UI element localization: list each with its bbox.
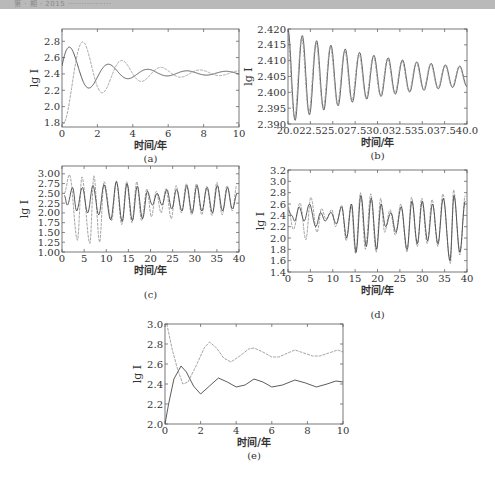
- x-tick-label: 25: [394, 273, 407, 284]
- series-dark-line: [165, 366, 343, 424]
- panel-c: 05101520253035401.001.251.501.752.002.25…: [18, 166, 245, 300]
- y-tick-label: 2.4: [44, 68, 60, 79]
- x-tick-label: 10: [337, 425, 350, 436]
- y-tick-label: 2.4: [147, 379, 163, 390]
- y-tick-label: 2.2: [270, 221, 286, 232]
- series-dark-line: [288, 30, 467, 121]
- y-tick-label: 2.8: [147, 339, 163, 350]
- x-axis-label: 时间/年: [134, 139, 168, 151]
- y-tick-label: 1.4: [270, 267, 286, 278]
- series-dark-line: [62, 47, 239, 88]
- x-tick-label: 4: [130, 128, 136, 139]
- x-tick-label: 35: [438, 273, 451, 284]
- figure: 02468101.82.02.22.42.62.8时间/年lg I(a)20.0…: [0, 0, 495, 488]
- y-axis-label: lg I: [28, 69, 41, 87]
- x-tick-label: 32.5: [389, 125, 411, 136]
- y-tick-label: 2.410: [257, 55, 286, 66]
- x-tick-label: 2: [197, 425, 203, 436]
- y-tick-label: 3.0: [147, 319, 163, 330]
- y-tick-label: 2.400: [257, 87, 286, 98]
- x-tick-label: 4: [233, 425, 239, 436]
- x-tick-label: 20: [144, 253, 157, 264]
- y-tick-label: 2.8: [270, 187, 286, 198]
- y-axis-label: lg I: [242, 67, 255, 85]
- x-tick-label: 6: [165, 128, 171, 139]
- y-tick-label: 2.00: [38, 207, 60, 218]
- x-tick-label: 35.0: [411, 125, 433, 136]
- panel-caption: (c): [144, 289, 158, 300]
- y-tick-label: 1.8: [270, 244, 286, 255]
- y-tick-label: 2.2: [44, 85, 60, 96]
- y-tick-label: 1.8: [44, 117, 60, 128]
- x-axis-label: 时间/年: [237, 436, 271, 448]
- y-tick-label: 3.0: [270, 176, 286, 187]
- x-tick-label: 40.0: [456, 125, 478, 136]
- y-tick-label: 2.395: [257, 103, 286, 114]
- panel-caption: (d): [370, 309, 384, 320]
- x-tick-label: 10: [100, 253, 113, 264]
- x-tick-label: 25.0: [322, 125, 344, 136]
- x-tick-label: 8: [200, 128, 206, 139]
- x-tick-label: 10: [233, 128, 246, 139]
- panel-a: 02468101.82.02.22.42.62.8时间/年lg I(a): [28, 29, 245, 164]
- y-tick-label: 2.0: [270, 233, 286, 244]
- y-tick-label: 2.420: [257, 24, 286, 35]
- x-axis-label: 时间/年: [134, 264, 168, 276]
- x-tick-label: 0: [59, 128, 65, 139]
- y-tick-label: 2.4: [270, 210, 286, 221]
- y-tick-label: 2.8: [44, 36, 60, 47]
- x-tick-label: 27.5: [344, 125, 366, 136]
- x-tick-label: 2: [94, 128, 100, 139]
- y-tick-label: 1.50: [38, 227, 60, 238]
- x-tick-label: 25: [166, 253, 179, 264]
- series-light-line: [288, 190, 465, 264]
- y-tick-label: 2.25: [38, 198, 60, 209]
- y-tick-label: 2.2: [147, 399, 163, 410]
- y-tick-label: 2.390: [257, 119, 286, 130]
- panel-caption: (a): [144, 153, 158, 164]
- x-tick-label: 30.0: [366, 125, 388, 136]
- x-axis-label: 时间/年: [361, 136, 395, 148]
- panel-d: 05101520253035401.41.61.82.02.22.42.62.8…: [254, 165, 473, 321]
- x-axis-label: 时间/年: [361, 284, 395, 296]
- panel-caption: (b): [370, 150, 384, 161]
- x-tick-label: 37.5: [433, 125, 455, 136]
- x-tick-label: 30: [188, 253, 201, 264]
- y-tick-label: 1.25: [38, 237, 60, 248]
- series-light-line: [62, 42, 239, 123]
- y-tick-label: 1.6: [270, 255, 286, 266]
- panel-e: 02468102.02.22.42.62.83.0时间/年lg I(e): [131, 319, 349, 462]
- panel-caption: (e): [247, 450, 261, 461]
- y-tick-label: 2.415: [257, 39, 286, 50]
- x-tick-label: 5: [81, 253, 87, 264]
- x-tick-label: 8: [304, 425, 310, 436]
- y-tick-label: 2.6: [270, 199, 286, 210]
- y-tick-label: 2.0: [44, 101, 60, 112]
- x-tick-label: 15: [349, 273, 362, 284]
- x-tick-label: 15: [122, 253, 135, 264]
- x-tick-label: 20: [371, 273, 384, 284]
- series-light-line: [167, 324, 343, 384]
- y-tick-label: 2.6: [147, 359, 163, 370]
- x-tick-label: 40: [461, 273, 474, 284]
- y-tick-label: 2.405: [257, 71, 286, 82]
- y-tick-label: 2.50: [38, 188, 60, 199]
- panel-b: 20.022.525.027.530.032.535.037.540.02.39…: [242, 24, 478, 162]
- y-tick-label: 1.00: [38, 247, 60, 258]
- y-axis-label: lg I: [254, 212, 267, 230]
- x-tick-label: 40: [233, 253, 246, 264]
- y-axis-label: lg I: [131, 365, 144, 383]
- y-tick-label: 2.75: [38, 178, 60, 189]
- y-tick-label: 3.2: [270, 165, 286, 176]
- x-tick-label: 5: [307, 273, 313, 284]
- y-tick-label: 2.6: [44, 52, 60, 63]
- x-tick-label: 22.5: [299, 125, 321, 136]
- plot-frame: [62, 29, 239, 127]
- y-tick-label: 2.0: [147, 419, 163, 430]
- y-axis-label: lg I: [18, 200, 31, 218]
- y-tick-label: 3.00: [38, 168, 60, 179]
- x-tick-label: 6: [269, 425, 275, 436]
- x-tick-label: 35: [211, 253, 224, 264]
- x-tick-label: 30: [416, 273, 429, 284]
- y-tick-label: 1.75: [38, 217, 60, 228]
